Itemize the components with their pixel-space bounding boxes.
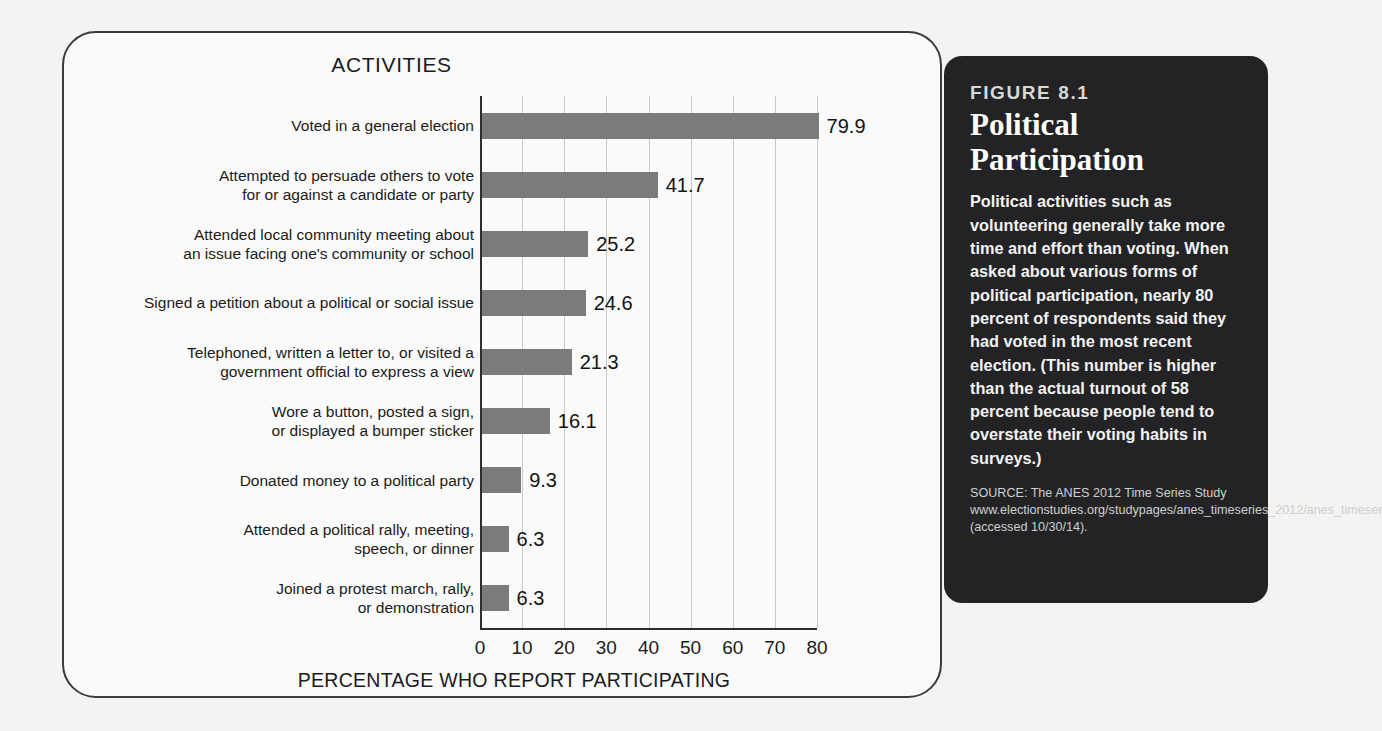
bar-value-label: 6.3 xyxy=(517,526,545,552)
bar xyxy=(482,290,586,316)
x-tick-label: 10 xyxy=(502,637,542,659)
bar-value-label: 16.1 xyxy=(558,408,597,434)
bar xyxy=(482,467,521,493)
category-label-line: Donated money to a political party xyxy=(74,471,474,490)
gridline xyxy=(817,96,818,628)
category-label-line: an issue facing one's community or schoo… xyxy=(74,244,474,263)
category-label-line: Wore a button, posted a sign, xyxy=(74,402,474,421)
category-label-line: for or against a candidate or party xyxy=(74,185,474,204)
category-label-line: Attended a political rally, meeting, xyxy=(74,520,474,539)
x-tick-label: 80 xyxy=(797,637,837,659)
bar-value-label: 79.9 xyxy=(827,113,866,139)
category-label: Attempted to persuade others to votefor … xyxy=(74,166,474,204)
plot-area: 79.941.725.224.621.316.19.36.36.3 xyxy=(480,96,817,628)
category-label-line: Signed a petition about a political or s… xyxy=(74,293,474,312)
bar-value-label: 25.2 xyxy=(596,231,635,257)
chart-card: ACTIVITIES Voted in a general electionAt… xyxy=(62,31,942,698)
category-label-line: or demonstration xyxy=(74,598,474,617)
category-label: Signed a petition about a political or s… xyxy=(74,293,474,312)
category-label: Telephoned, written a letter to, or visi… xyxy=(74,343,474,381)
x-axis-title: PERCENTAGE WHO REPORT PARTICIPATING xyxy=(214,669,814,692)
x-tick-label: 60 xyxy=(713,637,753,659)
bar xyxy=(482,408,550,434)
chart-title: ACTIVITIES xyxy=(64,53,719,77)
bar xyxy=(482,113,819,139)
x-tick-label: 30 xyxy=(586,637,626,659)
figure-source-citation: SOURCE: The ANES 2012 Time Series Study … xyxy=(970,485,1242,536)
bar-value-label: 9.3 xyxy=(529,467,557,493)
x-tick-label: 20 xyxy=(544,637,584,659)
bar xyxy=(482,349,572,375)
x-axis-line xyxy=(480,628,817,630)
gridline xyxy=(775,96,776,628)
category-label-line: Voted in a general election xyxy=(74,116,474,135)
figure-caption: Political activities such as volunteerin… xyxy=(970,190,1242,470)
category-label: Wore a button, posted a sign,or displaye… xyxy=(74,402,474,440)
category-label-column: Voted in a general electionAttempted to … xyxy=(70,96,474,628)
category-label: Donated money to a political party xyxy=(74,471,474,490)
x-tick-label: 40 xyxy=(629,637,669,659)
x-tick-label: 50 xyxy=(671,637,711,659)
category-label-line: Attempted to persuade others to vote xyxy=(74,166,474,185)
gridline xyxy=(733,96,734,628)
category-label: Attended a political rally, meeting,spee… xyxy=(74,520,474,558)
category-label-line: or displayed a bumper sticker xyxy=(74,421,474,440)
category-label-line: Telephoned, written a letter to, or visi… xyxy=(74,343,474,362)
category-label-line: government official to express a view xyxy=(74,362,474,381)
figure-title: Political Participation xyxy=(970,108,1242,177)
bar xyxy=(482,231,588,257)
category-label-line: Joined a protest march, rally, xyxy=(74,579,474,598)
category-label-line: speech, or dinner xyxy=(74,539,474,558)
category-label: Voted in a general election xyxy=(74,116,474,135)
bar-value-label: 21.3 xyxy=(580,349,619,375)
bar xyxy=(482,172,658,198)
bar-value-label: 6.3 xyxy=(517,585,545,611)
category-label: Joined a protest march, rally,or demonst… xyxy=(74,579,474,617)
x-tick-label: 70 xyxy=(755,637,795,659)
figure-number: FIGURE 8.1 xyxy=(970,82,1242,104)
bar-value-label: 41.7 xyxy=(666,172,705,198)
category-label-line: Attended local community meeting about xyxy=(74,225,474,244)
category-label: Attended local community meeting aboutan… xyxy=(74,225,474,263)
x-tick-label: 0 xyxy=(460,637,500,659)
bar-value-label: 24.6 xyxy=(594,290,633,316)
figure-info-panel: FIGURE 8.1 Political Participation Polit… xyxy=(944,56,1268,603)
figure-page: ACTIVITIES Voted in a general electionAt… xyxy=(0,0,1382,731)
bar xyxy=(482,585,509,611)
bar xyxy=(482,526,509,552)
